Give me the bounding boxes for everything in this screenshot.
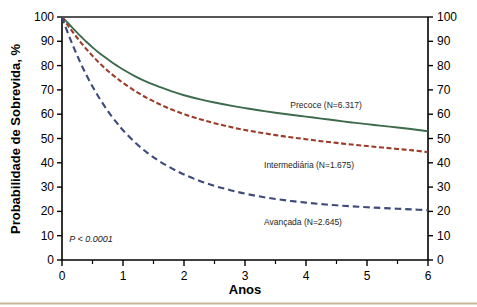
y-tick-label-right: 20 [437, 204, 451, 218]
y-tick-label-right: 0 [437, 253, 444, 267]
y-tick-label-right: 80 [437, 59, 451, 73]
y-tick-label-right: 50 [437, 132, 451, 146]
y-tick-label-left: 30 [41, 180, 55, 194]
x-tick-label: 4 [303, 269, 310, 283]
survival-chart: 0102030405060708090100 01020304050607080… [0, 0, 477, 307]
y-tick-label-right: 10 [437, 229, 451, 243]
curve-label-avanada: Avançada (N=2.645) [264, 217, 342, 227]
chart-background [0, 0, 477, 307]
y-tick-label-left: 70 [41, 83, 55, 97]
y-tick-label-left: 0 [47, 253, 54, 267]
y-tick-label-left: 80 [41, 59, 55, 73]
y-tick-label-left: 60 [41, 107, 55, 121]
x-axis-title: Anos [229, 282, 262, 297]
y-tick-label-right: 70 [437, 83, 451, 97]
y-tick-label-right: 30 [437, 180, 451, 194]
x-tick-label: 6 [425, 269, 432, 283]
y-tick-label-right: 90 [437, 34, 451, 48]
y-tick-label-right: 100 [437, 10, 457, 24]
y-tick-label-left: 90 [41, 34, 55, 48]
x-tick-label: 1 [120, 269, 127, 283]
curve-label-precoce: Precoce (N=6.317) [290, 100, 362, 110]
y-tick-label-left: 100 [34, 10, 54, 24]
y-tick-label-left: 20 [41, 204, 55, 218]
y-tick-label-right: 40 [437, 156, 451, 170]
y-axis-title: Probabilidade de Sobrevida, % [8, 44, 23, 234]
x-tick-label: 2 [181, 269, 188, 283]
p-value-annotation: P < 0.0001 [69, 234, 112, 244]
curve-label-intermediria: Intermediária (N=1.675) [264, 160, 354, 170]
x-tick-label: 5 [364, 269, 371, 283]
annotation-group: P < 0.0001 [69, 234, 112, 244]
y-tick-label-left: 40 [41, 156, 55, 170]
x-tick-label: 3 [242, 269, 249, 283]
y-tick-label-left: 50 [41, 132, 55, 146]
chart-svg: 0102030405060708090100 01020304050607080… [0, 0, 477, 307]
y-tick-label-left: 10 [41, 229, 55, 243]
y-tick-label-right: 60 [437, 107, 451, 121]
x-tick-label: 0 [59, 269, 66, 283]
